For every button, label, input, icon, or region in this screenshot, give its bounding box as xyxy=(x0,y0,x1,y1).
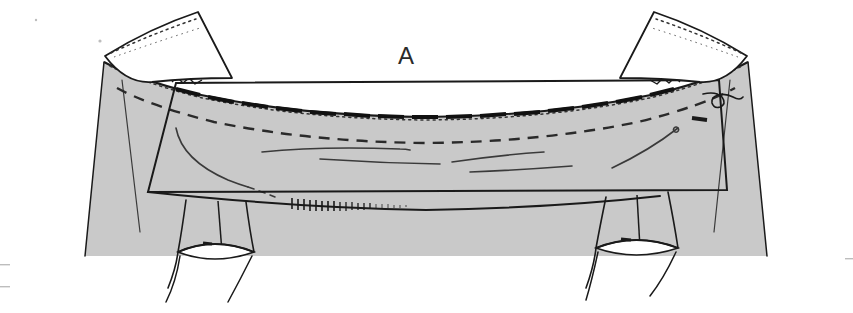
panel-label-a: A xyxy=(398,44,415,68)
short-tick-mark xyxy=(692,118,707,120)
figure-panel: A xyxy=(0,0,853,313)
figure-illustration xyxy=(0,0,853,313)
white-flap-right xyxy=(620,12,747,82)
white-flap-left xyxy=(105,12,232,82)
